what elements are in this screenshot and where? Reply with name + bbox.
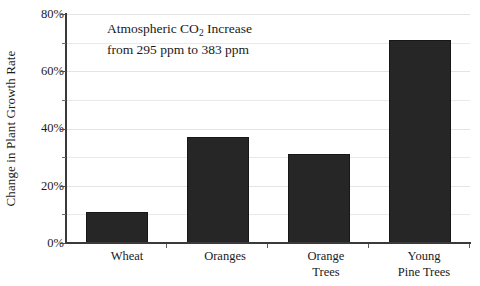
x-tickmark-1 — [166, 244, 167, 248]
chart-annotation: Atmospheric CO2 Increase from 295 ppm to… — [107, 19, 252, 60]
x-tickmark-3 — [368, 244, 369, 248]
x-label-oranges: Oranges — [175, 248, 275, 264]
x-tickmark-4 — [469, 244, 470, 248]
y-tick-label-80: 80% — [20, 8, 64, 20]
annotation-line1: Atmospheric CO2 Increase — [107, 21, 252, 36]
x-label-orange-trees: Orange Trees — [276, 248, 376, 280]
bar-wheat[interactable] — [86, 212, 148, 243]
bar-young-pine-trees[interactable] — [389, 40, 451, 243]
y-tickmark-30 — [62, 157, 66, 158]
y-tick-label-20: 20% — [20, 180, 64, 192]
bar-orange-trees[interactable] — [288, 154, 350, 243]
y-tick-label-0: 0% — [20, 237, 64, 249]
x-label-young-pine-trees: Young Pine Trees — [374, 248, 474, 280]
y-tickmark-20 — [60, 186, 66, 187]
y-tickmark-50 — [62, 100, 66, 101]
y-tickmark-40 — [60, 129, 66, 130]
annotation-line1-suffix: Increase — [204, 21, 252, 36]
y-tickmark-0 — [60, 243, 66, 244]
bar-chart: Change in Plant Growth Rate 80% 60% 40% … — [0, 0, 480, 286]
y-axis-tick-labels: 80% 60% 40% 20% 0% — [18, 0, 64, 286]
y-tickmark-10 — [62, 214, 66, 215]
y-tickmark-60 — [60, 71, 66, 72]
y-tickmark-80 — [60, 14, 66, 15]
annotation-line2: from 295 ppm to 383 ppm — [107, 40, 252, 60]
y-tick-label-60: 60% — [20, 65, 64, 77]
x-axis-line — [65, 242, 471, 244]
x-label-wheat: Wheat — [77, 248, 177, 264]
y-tick-label-40: 40% — [20, 122, 64, 134]
y-tickmark-70 — [62, 43, 66, 44]
x-axis-category-labels: Wheat Oranges Orange Trees Young Pine Tr… — [66, 248, 470, 286]
gridline-80 — [66, 14, 470, 15]
x-tickmark-2 — [267, 244, 268, 248]
bar-oranges[interactable] — [187, 137, 249, 243]
annotation-line1-prefix: Atmospheric CO — [107, 21, 199, 36]
annotation-subscript: 2 — [199, 28, 204, 38]
